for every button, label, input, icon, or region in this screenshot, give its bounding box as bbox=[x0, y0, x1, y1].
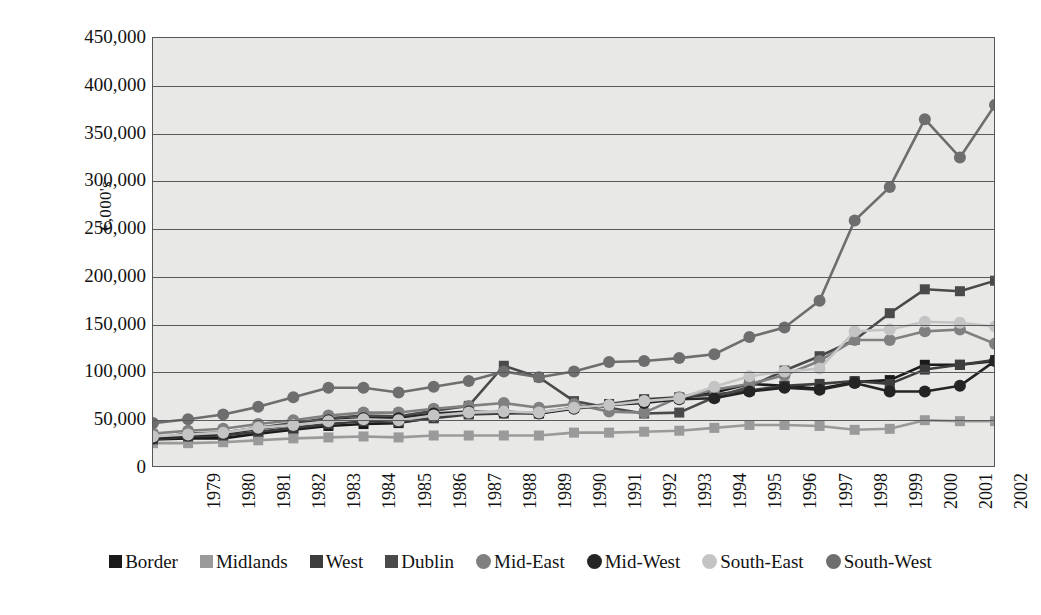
line-chart: €,000's 050,000100,000150,000200,000250,… bbox=[0, 0, 1041, 615]
legend-item-label: Border bbox=[125, 552, 178, 571]
legend-item-border[interactable]: Border bbox=[109, 552, 178, 571]
x-axis-tick-label: 1987 bbox=[486, 473, 504, 535]
data-point-circle bbox=[428, 381, 440, 393]
legend-item-midlands[interactable]: Midlands bbox=[200, 552, 288, 571]
legend-item-label: South-West bbox=[844, 552, 932, 571]
data-point-square bbox=[709, 423, 719, 433]
data-point-circle bbox=[884, 334, 896, 346]
legend-circle-icon bbox=[702, 554, 717, 569]
y-axis-tick-label: 150,000 bbox=[62, 314, 146, 333]
x-axis-tick-label: 1991 bbox=[626, 473, 644, 535]
x-axis-tick-label: 1986 bbox=[451, 473, 469, 535]
y-axis-tick-label: 350,000 bbox=[62, 123, 146, 142]
x-axis-tick-label: 2000 bbox=[942, 473, 960, 535]
series-south-east bbox=[153, 316, 995, 443]
data-point-circle bbox=[638, 395, 650, 407]
x-axis-tick-label: 1989 bbox=[556, 473, 574, 535]
data-point-circle bbox=[919, 113, 931, 125]
data-point-circle bbox=[358, 382, 370, 394]
data-point-square bbox=[359, 431, 369, 441]
legend-square-icon bbox=[310, 555, 323, 568]
data-point-circle bbox=[814, 295, 826, 307]
legend-item-label: Mid-East bbox=[494, 552, 565, 571]
data-point-circle bbox=[919, 316, 931, 328]
data-point-circle bbox=[708, 348, 720, 360]
series-layer bbox=[153, 38, 995, 467]
data-point-circle bbox=[673, 352, 685, 364]
data-point-square bbox=[850, 425, 860, 435]
series-south-west bbox=[153, 99, 995, 429]
data-point-square bbox=[639, 427, 649, 437]
x-axis-tick-label: 1995 bbox=[766, 473, 784, 535]
gridline bbox=[153, 86, 994, 87]
data-point-circle bbox=[153, 417, 159, 429]
data-point-circle bbox=[954, 380, 966, 392]
data-point-circle bbox=[708, 392, 720, 404]
data-point-circle bbox=[954, 317, 966, 329]
legend-item-label: South-East bbox=[720, 552, 803, 571]
data-point-circle bbox=[849, 325, 861, 337]
data-point-square bbox=[920, 365, 930, 375]
x-axis-tick-label: 1998 bbox=[872, 473, 890, 535]
data-point-circle bbox=[884, 181, 896, 193]
x-axis-tick-label: 1982 bbox=[310, 473, 328, 535]
data-point-square bbox=[780, 420, 790, 430]
data-point-circle bbox=[849, 215, 861, 227]
data-point-circle bbox=[849, 377, 861, 389]
data-point-circle bbox=[779, 382, 791, 394]
x-axis-tick-label: 1994 bbox=[731, 473, 749, 535]
data-point-square bbox=[744, 420, 754, 430]
data-point-square bbox=[955, 286, 965, 296]
data-point-circle bbox=[533, 371, 545, 383]
x-axis-tick-label: 1985 bbox=[416, 473, 434, 535]
data-point-square bbox=[885, 308, 895, 318]
y-axis-tick-label: 50,000 bbox=[62, 409, 146, 428]
data-point-square bbox=[534, 431, 544, 441]
data-point-circle bbox=[533, 407, 545, 419]
x-axis-tick-label: 2001 bbox=[977, 473, 995, 535]
series-dublin bbox=[153, 276, 995, 444]
legend-item-label: Mid-West bbox=[605, 552, 681, 571]
data-point-square bbox=[323, 432, 333, 442]
x-axis-tick-label: 1992 bbox=[661, 473, 679, 535]
x-axis-tick-label: 1979 bbox=[205, 473, 223, 535]
data-point-circle bbox=[603, 399, 615, 411]
y-axis-tick-labels: 050,000100,000150,000200,000250,000300,0… bbox=[62, 0, 146, 615]
legend-item-mid-east[interactable]: Mid-East bbox=[476, 552, 565, 571]
data-point-circle bbox=[568, 402, 580, 414]
x-axis-tick-label: 1990 bbox=[591, 473, 609, 535]
x-axis-tick-label: 1997 bbox=[837, 473, 855, 535]
data-point-circle bbox=[989, 338, 995, 350]
gridline bbox=[153, 420, 994, 421]
data-point-circle bbox=[814, 384, 826, 396]
legend-item-south-east[interactable]: South-East bbox=[702, 552, 803, 571]
y-axis-tick-label: 450,000 bbox=[62, 27, 146, 46]
data-point-square bbox=[569, 428, 579, 438]
data-point-circle bbox=[463, 407, 475, 419]
gridline bbox=[153, 325, 994, 326]
data-point-circle bbox=[954, 151, 966, 163]
gridline bbox=[153, 181, 994, 182]
legend-item-south-west[interactable]: South-West bbox=[826, 552, 932, 571]
x-axis-tick-label: 1984 bbox=[380, 473, 398, 535]
data-point-circle bbox=[708, 381, 720, 393]
data-point-circle bbox=[603, 356, 615, 368]
legend-item-label: Midlands bbox=[216, 552, 288, 571]
legend-square-icon bbox=[109, 555, 122, 568]
y-axis-tick-label: 0 bbox=[62, 457, 146, 476]
legend-circle-icon bbox=[826, 554, 841, 569]
legend-item-dublin[interactable]: Dublin bbox=[385, 552, 454, 571]
data-point-circle bbox=[779, 322, 791, 334]
data-point-circle bbox=[287, 391, 299, 403]
legend-square-icon bbox=[385, 555, 398, 568]
gridline bbox=[153, 134, 994, 135]
data-point-circle bbox=[989, 99, 995, 111]
data-point-square bbox=[394, 432, 404, 442]
legend-item-mid-west[interactable]: Mid-West bbox=[587, 552, 681, 571]
data-point-square bbox=[815, 421, 825, 431]
data-point-circle bbox=[919, 386, 931, 398]
legend-item-west[interactable]: West bbox=[310, 552, 364, 571]
data-point-circle bbox=[463, 375, 475, 387]
y-axis-tick-label: 100,000 bbox=[62, 361, 146, 380]
legend-item-label: West bbox=[326, 552, 364, 571]
